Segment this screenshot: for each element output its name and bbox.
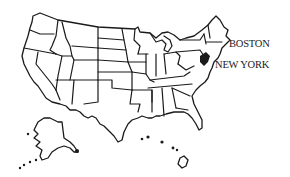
city-label-boston: BOSTON bbox=[229, 38, 270, 49]
hawaii bbox=[141, 135, 188, 168]
city-label-new-york: NEW YORK bbox=[215, 59, 269, 70]
alaska-outline bbox=[34, 118, 78, 160]
us-map bbox=[0, 0, 290, 177]
